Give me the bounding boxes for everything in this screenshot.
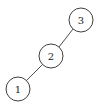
node-3: 3	[69, 8, 93, 32]
node-label: 2	[48, 51, 54, 62]
node-label: 3	[78, 15, 84, 26]
node-2: 2	[39, 44, 63, 68]
node-label: 1	[15, 84, 21, 95]
edge-3-2	[59, 29, 73, 47]
node-1: 1	[6, 77, 30, 101]
tree-diagram: 3 2 1	[0, 0, 104, 111]
edge-2-1	[26, 64, 43, 81]
